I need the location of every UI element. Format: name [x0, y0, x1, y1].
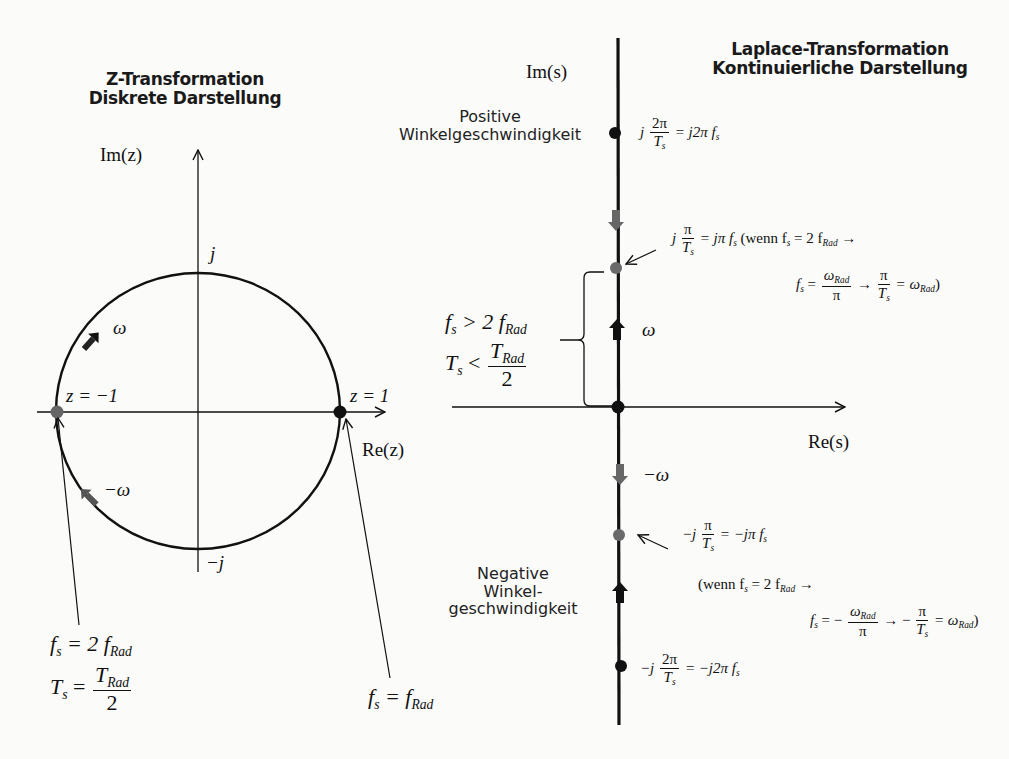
pointer-minus-jpi — [638, 535, 668, 549]
s-minus-omega-label: −ω — [643, 465, 669, 486]
z-title-line2: Diskrete Darstellung — [70, 89, 300, 108]
point-origin — [612, 401, 625, 414]
pointer-jpi — [626, 250, 656, 264]
z-plane — [37, 150, 390, 678]
s-title-line2: Kontinuierliche Darstellung — [690, 59, 990, 78]
down-arrow-grey-upper-icon — [608, 210, 624, 231]
point-jpi — [610, 262, 622, 274]
label-minus-jpi: −j πTs = −jπ fs — [682, 518, 767, 553]
z-plus1-label: z = 1 — [350, 386, 389, 407]
z-minus-j-label: −j — [206, 553, 224, 574]
z-minus1-label: z = −1 — [66, 386, 118, 407]
label-minus-jpi-cond: (wenn fs = 2 fRad → — [698, 576, 814, 594]
z-title: Z-Transformation Diskrete Darstellung — [70, 70, 300, 107]
s-im-axis-label: Im(s) — [526, 62, 567, 83]
z-title-line1: Z-Transformation — [70, 70, 300, 89]
z-omega-label: ω — [113, 318, 126, 339]
point-z-plus-1 — [334, 406, 347, 419]
down-arrow-grey-lower-icon — [612, 464, 628, 485]
s-omega-label: ω — [642, 320, 655, 341]
s-imag-axis — [618, 38, 619, 725]
s-title-line1: Laplace-Transformation — [690, 40, 990, 59]
label-j2pi: j 2πTs = j2π fs — [640, 116, 719, 151]
pointer-z-minus-1 — [58, 418, 79, 625]
s-title: Laplace-Transformation Kontinuierliche D… — [690, 40, 990, 77]
label-jpi: j πTs = jπ fs (wenn fs = 2 fRad → — [672, 222, 856, 257]
point-minus-jpi — [613, 529, 625, 541]
s-re-axis-label: Re(s) — [808, 432, 849, 453]
up-arrow-black-lower-icon — [612, 582, 628, 603]
point-j2pi — [609, 127, 621, 139]
z-minus-omega-label: −ω — [104, 480, 130, 501]
negative-angular-velocity-label: Negative Winkel- geschwindigkeit — [438, 565, 588, 618]
z-note-line2: Ts = TRad 2 — [50, 663, 133, 715]
label-minus-j2pi: −j 2πTs = −j2π fs — [640, 652, 740, 687]
label-jpi-line2: fs = ωRadπ → πTs = ωRad) — [796, 268, 940, 304]
point-minus-j2pi — [615, 660, 627, 672]
label-minus-jpi-line2: fs = − ωRadπ → − πTs = ωRad) — [810, 604, 978, 640]
z-im-axis-label: Im(z) — [100, 145, 142, 166]
z-note-fs-equals-frad: fs = fRad — [368, 685, 433, 712]
z-re-axis-label: Re(z) — [362, 440, 404, 461]
up-arrow-black-upper-icon — [609, 319, 625, 340]
z-note-line1: fs = 2 fRad — [50, 632, 133, 659]
z-note-fraction: TRad 2 — [93, 663, 131, 715]
brace-note-oversampling: fs > 2 fRad Ts < TRad2 — [445, 310, 528, 391]
range-brace — [560, 272, 612, 406]
z-j-label: j — [210, 244, 215, 265]
positive-angular-velocity-label: Positive Winkelgeschwindigkeit — [370, 108, 610, 143]
point-z-minus-1 — [51, 406, 64, 419]
z-note-nyquist: fs = 2 fRad Ts = TRad 2 — [50, 632, 133, 715]
